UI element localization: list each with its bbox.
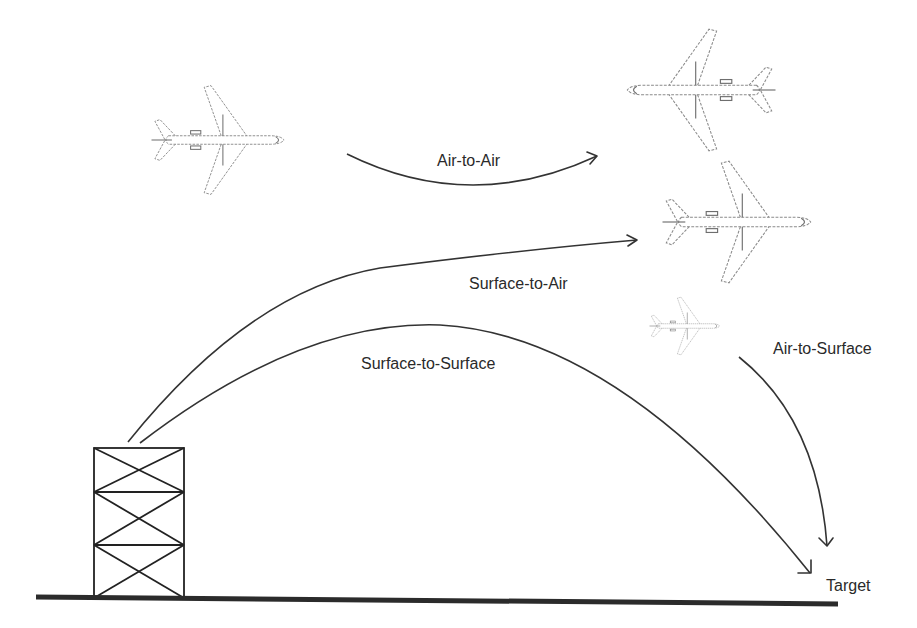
aircraft-small-right-icon [650, 297, 720, 355]
air-to-surface-label: Air-to-Surface [773, 340, 872, 357]
surface-to-surface-label: Surface-to-Surface [361, 355, 495, 372]
surface-to-air-label: Surface-to-Air [469, 275, 568, 292]
target-label: Target [826, 577, 871, 594]
missile-trajectory-diagram: Air-to-Air Surface-to-Air Surface-to-Sur… [0, 0, 917, 628]
air-to-surface-trajectory [739, 357, 833, 546]
surface-to-air-trajectory [128, 235, 637, 442]
aircraft-top-right-icon [627, 29, 775, 151]
launch-tower-icon [94, 448, 184, 598]
ground-line [36, 597, 838, 604]
aircraft-middle-right-icon [663, 161, 811, 283]
air-to-air-label: Air-to-Air [437, 152, 501, 169]
aircraft-left-icon [152, 86, 285, 195]
